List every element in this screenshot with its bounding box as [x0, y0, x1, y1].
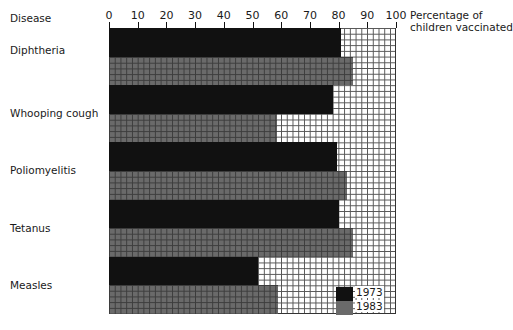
- category-label: Tetanus: [10, 222, 50, 234]
- category-label: Diphtheria: [10, 44, 65, 56]
- tick-label: 20: [159, 9, 173, 22]
- bar-1973: [109, 200, 339, 229]
- bar-1973: [109, 85, 333, 114]
- bar-1983: [109, 57, 353, 86]
- tick-label: 60: [274, 9, 288, 22]
- legend-swatch-1983: [336, 301, 353, 315]
- bar-1973: [109, 28, 341, 57]
- legend-swatch-1973: [336, 287, 353, 301]
- tick-label: 30: [188, 9, 202, 22]
- axis-title: Percentage of children vaccinated: [410, 9, 513, 33]
- category-header: Disease: [10, 12, 51, 24]
- category-label: Whooping cough: [10, 107, 98, 119]
- tick-label: 90: [360, 9, 374, 22]
- tick-label: 50: [246, 9, 260, 22]
- legend-label-1973: 1973: [355, 286, 384, 298]
- tick-mark: [396, 22, 397, 28]
- bar-1973: [109, 257, 258, 286]
- bar-1983: [109, 285, 278, 314]
- tick-label: 100: [386, 9, 407, 22]
- tick-label: 0: [106, 9, 113, 22]
- tick-label: 10: [131, 9, 145, 22]
- bar-1973: [109, 142, 337, 171]
- tick-label: 40: [217, 9, 231, 22]
- bar-1983: [109, 171, 347, 200]
- category-label: Measles: [10, 279, 52, 291]
- axis-title-line1: Percentage of: [410, 9, 513, 21]
- category-label: Poliomyelitis: [10, 164, 76, 176]
- plot-area: 1973 1983: [109, 28, 396, 314]
- tick-label: 70: [303, 9, 317, 22]
- bar-1983: [109, 228, 353, 257]
- tick-label: 80: [332, 9, 346, 22]
- bar-1983: [109, 114, 277, 143]
- legend-label-1983: 1983: [355, 300, 384, 312]
- axis-title-line2: children vaccinated: [410, 21, 513, 33]
